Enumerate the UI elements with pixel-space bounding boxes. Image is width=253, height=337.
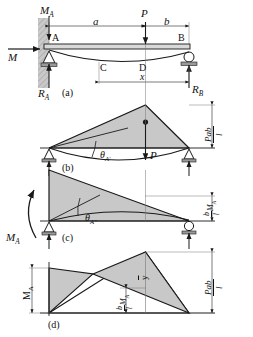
- moment-triangle-c: [49, 170, 189, 221]
- moment-triangle-b: [49, 105, 189, 148]
- label-theta-a-prime: θA′: [100, 150, 110, 163]
- roller-support-c-right: [184, 221, 193, 230]
- label-pab-l-b: Pabl: [203, 127, 224, 144]
- label-x-dim: x: [140, 72, 144, 82]
- label-ma-d: MA: [21, 286, 34, 300]
- label-b-dim: b: [164, 16, 170, 27]
- label-pab-l-d: Pabl: [203, 280, 224, 297]
- label-ma-c: MA: [6, 232, 20, 246]
- label-bl-ma-c: blMA: [202, 201, 221, 217]
- panel-a: [8, 16, 197, 96]
- panel-tag-d: (d): [48, 320, 60, 330]
- pin-support-c-left: [44, 222, 54, 232]
- label-p-a: P: [141, 8, 148, 19]
- panel-tag-b: (b): [62, 163, 74, 173]
- label-a-dim: a: [93, 16, 99, 27]
- panel-c: [28, 170, 215, 249]
- label-point-b: B: [178, 33, 185, 43]
- wall-support: [38, 18, 49, 88]
- deflection-curve-b: [49, 148, 189, 160]
- label-bl-ma-d: blMA: [115, 295, 134, 311]
- label-ma-a: MA: [40, 5, 54, 19]
- label-ra: RA: [38, 88, 49, 102]
- panel-tag-c: (c): [62, 233, 73, 243]
- label-ybar-d: y: [139, 276, 149, 281]
- panel-tag-a: (a): [62, 88, 73, 98]
- label-theta-a-dprime: θA″: [85, 213, 97, 226]
- ma-triangle-d: [49, 268, 93, 313]
- label-m-a: M: [8, 52, 17, 63]
- moment-ma-curved-arrow-c: [28, 190, 36, 238]
- beam-ab: [44, 44, 190, 49]
- label-p-b: P: [150, 150, 157, 161]
- label-rb: RB: [192, 84, 203, 98]
- pin-support-b-left: [44, 149, 54, 159]
- combined-area-d: [93, 252, 189, 313]
- label-point-a: A: [52, 33, 59, 43]
- support-base-b: [181, 62, 197, 66]
- pin-support-b-right: [184, 149, 194, 159]
- label-point-c: C: [100, 63, 107, 73]
- deflected-shape: [49, 50, 189, 62]
